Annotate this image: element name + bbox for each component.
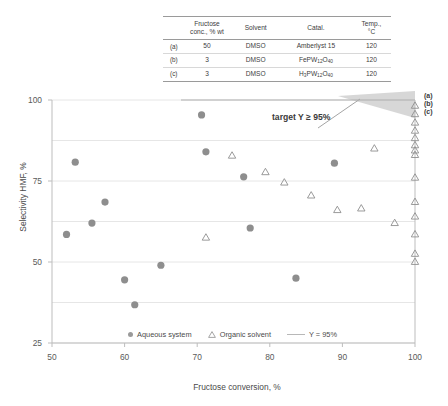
filled-circle-icon — [128, 332, 133, 337]
data-point-organic — [307, 192, 314, 198]
legend-item-reference-line: Y = 95% — [287, 330, 337, 339]
data-point-aqueous — [101, 198, 108, 205]
header-solvent: Solvent — [231, 17, 280, 40]
line-sample-icon — [287, 334, 305, 335]
cell-temperature: 120 — [352, 67, 391, 81]
cell-solvent: DMSO — [231, 67, 280, 81]
chart-figure: Fructose conc., % wt Solvent Catal. Temp… — [0, 0, 448, 406]
data-point-organic — [202, 234, 209, 240]
gridlines — [52, 100, 415, 343]
target-region-shading — [338, 91, 415, 118]
table-row: (a)50DMSOAmberlyst 15120 — [163, 40, 391, 53]
cell-solvent: DMSO — [231, 53, 280, 67]
cell-catalyst: H3PW12O40 — [280, 67, 352, 81]
target-annotation: target Y ≥ 95% — [272, 112, 330, 122]
header-temperature: Temp., °C — [352, 17, 391, 40]
header-catalyst: Catal. — [280, 17, 352, 40]
table-row: (b)3DMSOFePW12O40120 — [163, 53, 391, 67]
data-point-aqueous — [157, 262, 164, 269]
table-row: (c)3DMSOH3PW12O40120 — [163, 67, 391, 81]
open-triangle-icon — [208, 331, 216, 338]
data-point-aqueous — [240, 173, 247, 180]
legend-label-line: Y = 95% — [309, 330, 337, 339]
header-conc-line1: Fructose — [194, 20, 220, 27]
data-point-aqueous — [88, 220, 95, 227]
point-label-a: (a) — [424, 92, 433, 99]
data-point-organic — [358, 205, 365, 211]
legend-item-organic: Organic solvent — [208, 330, 271, 339]
data-point-aqueous — [331, 160, 338, 167]
data-point-organic — [281, 179, 288, 185]
legend-label-aqueous: Aqueous system — [137, 330, 192, 339]
row-label: (b) — [163, 53, 183, 67]
data-point-aqueous — [72, 159, 79, 166]
cell-concentration: 3 — [183, 67, 232, 81]
data-point-aqueous — [131, 301, 138, 308]
header-temp-line2: °C — [368, 28, 375, 35]
cell-catalyst: Amberlyst 15 — [280, 40, 352, 53]
data-point-aqueous — [121, 276, 128, 283]
cell-solvent: DMSO — [231, 40, 280, 53]
table-header-row: Fructose conc., % wt Solvent Catal. Temp… — [163, 17, 391, 40]
data-point-aqueous — [292, 275, 299, 282]
data-point-organic — [228, 152, 235, 158]
chart-legend: Aqueous system Organic solvent Y = 95% — [128, 330, 337, 339]
cell-temperature: 120 — [352, 40, 391, 53]
cell-catalyst: FePW12O40 — [280, 53, 352, 67]
data-point-organic — [371, 145, 378, 151]
header-fructose-conc: Fructose conc., % wt — [183, 17, 232, 40]
header-temp-line1: Temp., — [362, 20, 382, 27]
header-rowlabel — [163, 17, 183, 40]
data-point-aqueous — [63, 231, 70, 238]
data-point-organic — [334, 206, 341, 212]
row-label: (c) — [163, 67, 183, 81]
data-point-aqueous — [198, 111, 205, 118]
cell-concentration: 50 — [183, 40, 232, 53]
y-tick-marks — [48, 100, 52, 343]
header-conc-line2: conc., % wt — [190, 28, 224, 35]
cell-temperature: 120 — [352, 53, 391, 67]
row-label: (a) — [163, 40, 183, 53]
conditions-table: Fructose conc., % wt Solvent Catal. Temp… — [163, 16, 391, 82]
data-markers — [63, 102, 419, 309]
legend-item-aqueous: Aqueous system — [128, 330, 192, 339]
point-label-b: (b) — [424, 100, 433, 107]
data-point-aqueous — [247, 224, 254, 231]
data-point-organic — [391, 219, 398, 225]
x-tick-marks — [52, 343, 415, 347]
data-point-organic — [262, 168, 269, 174]
point-label-c: (c) — [424, 108, 433, 115]
cell-concentration: 3 — [183, 53, 232, 67]
table-body: (a)50DMSOAmberlyst 15120(b)3DMSOFePW12O4… — [163, 40, 391, 81]
legend-label-organic: Organic solvent — [220, 330, 271, 339]
data-point-aqueous — [202, 148, 209, 155]
